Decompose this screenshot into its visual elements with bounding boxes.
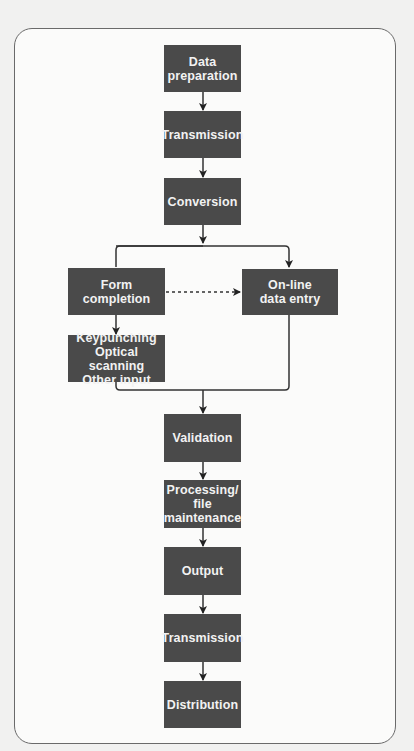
node-data-preparation: Data preparation	[164, 45, 241, 92]
node-output: Output	[164, 547, 241, 595]
node-online-data-entry: On-line data entry	[242, 269, 338, 315]
node-distribution: Distribution	[164, 681, 241, 728]
node-processing: Processing/ file maintenance	[164, 480, 241, 528]
node-form-completion: Form completion	[68, 268, 165, 315]
node-input-methods: Keypunching Optical scanning Other input	[68, 335, 165, 382]
node-validation: Validation	[164, 414, 241, 462]
node-transmission-2: Transmission	[164, 614, 241, 662]
node-conversion: Conversion	[164, 178, 241, 225]
node-transmission: Transmission	[164, 111, 241, 158]
